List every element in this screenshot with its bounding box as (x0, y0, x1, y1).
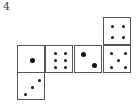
pip-icon (110, 52, 113, 55)
face-row-3 (74, 45, 102, 73)
pip-icon (124, 52, 127, 55)
pip-icon (24, 93, 27, 96)
pip-icon (30, 58, 35, 63)
pip-icon (92, 63, 97, 68)
pip-icon (64, 52, 67, 55)
pip-icon (117, 59, 120, 62)
pip-icon (38, 79, 41, 82)
pip-icon (111, 25, 114, 28)
pip-icon (111, 36, 114, 39)
pip-icon (54, 52, 57, 55)
face-row-1 (17, 45, 45, 73)
pip-icon (124, 66, 127, 69)
pip-icon (81, 52, 86, 57)
pip-icon (54, 59, 57, 62)
pip-icon (64, 59, 67, 62)
face-row-4 (103, 45, 131, 73)
face-bottom (17, 72, 45, 100)
pip-icon (64, 66, 67, 69)
problem-number: 4 (3, 0, 10, 13)
pip-icon (122, 36, 125, 39)
pip-icon (54, 66, 57, 69)
face-top (103, 17, 131, 45)
pip-icon (122, 25, 125, 28)
pip-icon (110, 66, 113, 69)
pip-icon (31, 86, 34, 89)
face-row-2 (45, 45, 73, 73)
